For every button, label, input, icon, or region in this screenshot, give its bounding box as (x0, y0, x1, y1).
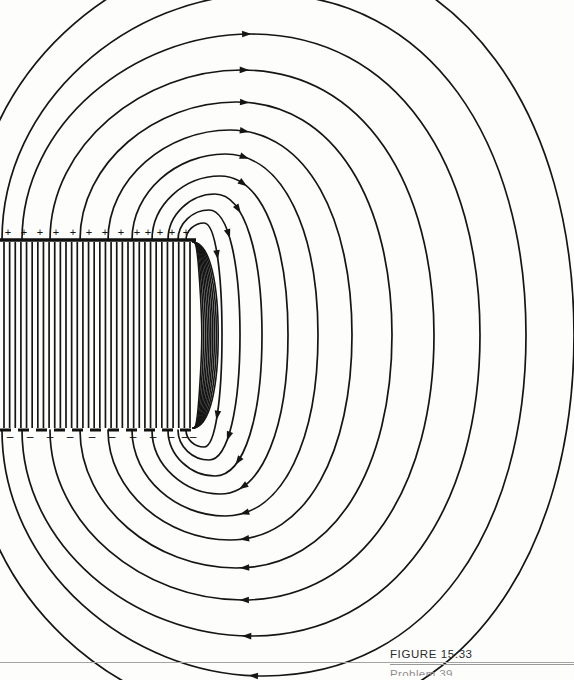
positive-charge-symbol: + (118, 226, 124, 238)
negative-charge-symbol: – (47, 430, 54, 444)
positive-charge-symbol: + (86, 226, 92, 238)
field-direction-arrow (239, 597, 248, 604)
field-direction-arrow (242, 31, 251, 38)
figure-caption-block: FIGURE 15.33 Problem 39 (390, 648, 574, 676)
field-direction-arrow (248, 672, 258, 679)
field-direction-arrow (242, 633, 252, 640)
fringe-field-lines-group (0, 0, 574, 680)
fringe-field-line (0, 0, 574, 680)
positive-charge-symbol: + (5, 226, 11, 238)
positive-charge-symbol: + (70, 226, 76, 238)
field-direction-arrow (240, 99, 250, 106)
field-direction-arrow (239, 152, 250, 161)
positive-charge-symbol: + (157, 226, 163, 238)
negative-charge-symbol: – (109, 430, 116, 444)
negative-charge-symbol: – (27, 430, 34, 444)
fringe-field-line (22, 34, 480, 636)
field-direction-arrow (240, 564, 250, 571)
negative-charge-symbol: – (190, 430, 197, 444)
caption-rule (390, 664, 574, 665)
negative-charge-symbol: – (67, 430, 74, 444)
positive-charge-symbol: + (169, 226, 175, 238)
figure-container: +++++++++++++––––––––––– FIGURE 15.33 Pr… (0, 0, 574, 680)
positive-charge-symbol: + (37, 226, 43, 238)
uniform-field-lines-group (4, 242, 190, 428)
negative-charge-symbol: – (130, 430, 137, 444)
field-direction-arrow (224, 431, 233, 442)
positive-charge-symbol: + (145, 226, 151, 238)
edge-crowding-lines-group (192, 242, 218, 428)
negative-charge-symbol: – (7, 430, 14, 444)
figure-caption-subtext: Problem 39 (390, 668, 574, 676)
positive-charge-symbol: + (53, 226, 59, 238)
fringe-field-line (80, 102, 392, 568)
negative-charge-symbol: – (182, 430, 189, 444)
negative-charge-symbol: – (168, 430, 175, 444)
field-direction-arrow (240, 67, 250, 74)
field-direction-arrow (239, 508, 250, 517)
positive-charge-symbol: + (134, 226, 140, 238)
negative-charge-symbol: – (150, 430, 157, 444)
positive-charge-symbol: + (21, 226, 27, 238)
fringe-field-line (2, 0, 526, 676)
fringe-field-line (132, 154, 318, 516)
electric-field-diagram: +++++++++++++––––––––––– (0, 0, 574, 680)
positive-charge-symbol: + (183, 226, 189, 238)
positive-charge-symbol: + (102, 226, 108, 238)
figure-caption-label: FIGURE 15.33 (390, 648, 574, 660)
negative-charge-symbol: – (89, 430, 96, 444)
fringe-field-line (50, 70, 434, 600)
field-direction-arrow (224, 228, 233, 239)
